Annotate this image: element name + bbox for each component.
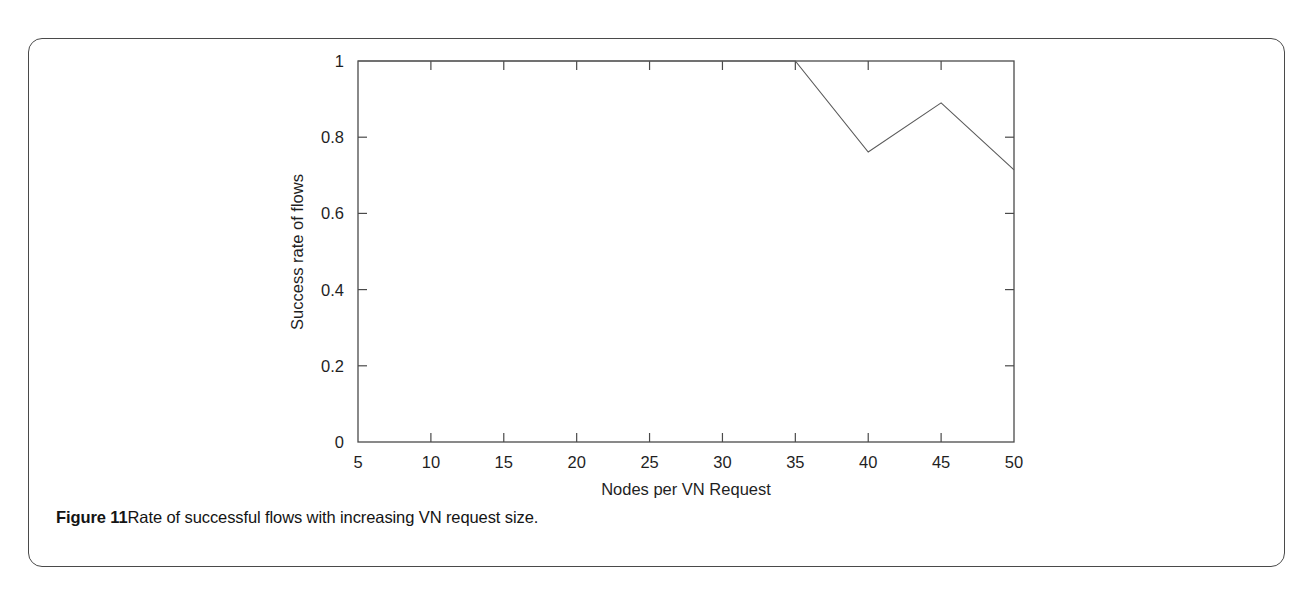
x-tick-label: 10	[422, 453, 440, 471]
y-axis-tick-labels: 00.20.40.60.81	[321, 52, 344, 451]
y-tick-label: 1	[335, 52, 344, 70]
y-tick-label: 0.2	[321, 357, 344, 375]
x-tick-label: 50	[1005, 453, 1023, 471]
y-tick-label: 0	[335, 433, 344, 451]
x-tick-label: 25	[640, 453, 658, 471]
x-tick-label: 35	[786, 453, 804, 471]
x-axis-tick-labels: 5101520253035404550	[353, 453, 1023, 471]
x-axis-label: Nodes per VN Request	[601, 480, 771, 498]
y-axis-label: Success rate of flows	[288, 174, 306, 330]
x-tick-label: 20	[567, 453, 585, 471]
figure-caption: Figure 11Rate of successful flows with i…	[56, 508, 538, 527]
plot-frame	[358, 61, 1014, 442]
data-series-line	[358, 61, 1014, 170]
y-tick-label: 0.6	[321, 204, 344, 222]
x-tick-label: 45	[932, 453, 950, 471]
figure-caption-label: Figure 11	[56, 508, 128, 526]
x-tick-label: 30	[713, 453, 731, 471]
figure-caption-text: Rate of successful flows with increasing…	[128, 508, 539, 526]
y-tick-label: 0.8	[321, 128, 344, 146]
axis-ticks	[358, 61, 1014, 442]
y-tick-label: 0.4	[321, 281, 344, 299]
x-tick-label: 5	[353, 453, 362, 471]
x-tick-label: 40	[859, 453, 877, 471]
x-tick-label: 15	[495, 453, 513, 471]
